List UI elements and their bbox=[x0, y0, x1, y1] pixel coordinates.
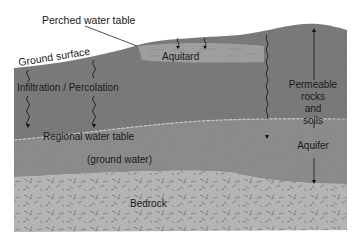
permeable-label-line4: soils bbox=[303, 115, 323, 126]
permeable-label-line2: rocks bbox=[301, 91, 325, 102]
groundwater-diagram: Perched water table Ground surface Aquit… bbox=[0, 0, 359, 243]
perched-water-table-pointer bbox=[85, 26, 137, 46]
aquitard-label: Aquitard bbox=[162, 51, 199, 62]
infiltration-label: Infiltration / Percolation bbox=[17, 82, 119, 93]
bedrock-label: Bedrock bbox=[130, 198, 168, 209]
aquitard-lens bbox=[138, 43, 264, 63]
perched-water-table-label: Perched water table bbox=[42, 14, 136, 26]
aquifer-label: Aquifer bbox=[297, 140, 329, 151]
permeable-label-line1: Permeable bbox=[289, 79, 338, 90]
ground-water-label: (ground water) bbox=[87, 154, 152, 165]
regional-water-table-label: Regional water table bbox=[43, 131, 135, 142]
permeable-label-line3: and bbox=[305, 103, 322, 114]
